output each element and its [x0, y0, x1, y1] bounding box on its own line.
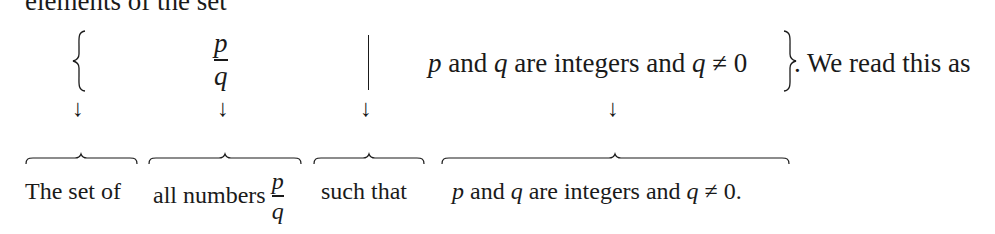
- var-q: q: [687, 178, 699, 204]
- var-q: q: [692, 48, 706, 78]
- down-arrow-icon: ↓: [360, 96, 372, 120]
- underbrace-all-numbers: [148, 153, 302, 165]
- label-condition: p and q are integers and q ≠ 0.: [452, 179, 742, 203]
- text-neq-zero: ≠ 0.: [699, 178, 742, 204]
- text-neq-zero: ≠ 0: [705, 48, 747, 78]
- fraction-numerator: p: [214, 30, 228, 57]
- label-fraction: p q: [272, 169, 284, 223]
- label-set-of: The set of: [25, 179, 121, 203]
- all-numbers-text: all numbers: [153, 182, 272, 209]
- fraction-denominator: q: [272, 199, 284, 223]
- top-clipped-text: elements of the set: [25, 0, 227, 15]
- label-all-numbers: all numbers p q: [153, 169, 284, 223]
- text-integers: are integers and: [523, 178, 687, 204]
- var-p: p: [428, 48, 442, 78]
- text-and: and: [464, 178, 511, 204]
- var-q: q: [511, 178, 523, 204]
- underbrace-such-that: [313, 153, 425, 165]
- down-arrow-icon: ↓: [217, 96, 229, 120]
- fraction-bar: [272, 195, 284, 197]
- underbrace-set-of: [25, 153, 138, 165]
- down-arrow-icon: ↓: [72, 96, 84, 120]
- var-p: p: [452, 178, 464, 204]
- fraction-numerator: p: [272, 169, 284, 193]
- fraction-denominator: q: [214, 63, 228, 90]
- var-q: q: [494, 48, 508, 78]
- down-arrow-icon: ↓: [607, 96, 619, 120]
- such-that-bar: [368, 35, 369, 90]
- text-and: and: [442, 48, 494, 78]
- set-condition: p and q are integers and q ≠ 0: [428, 50, 747, 77]
- text-integers: are integers and: [507, 48, 691, 78]
- underbrace-condition: [441, 153, 790, 165]
- left-curly-brace: [72, 30, 88, 92]
- label-such-that: such that: [321, 179, 407, 203]
- trailing-text: . We read this as: [794, 50, 971, 77]
- set-fraction: p q: [214, 30, 228, 90]
